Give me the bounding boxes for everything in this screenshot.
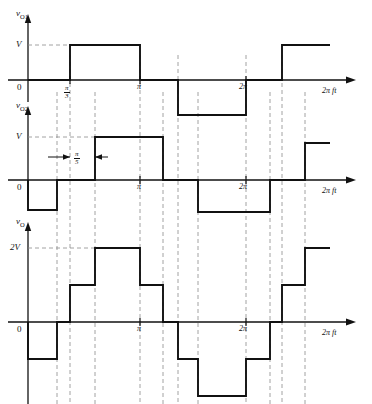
vo-x-axis-label: 2π ft xyxy=(322,328,336,337)
vo2-x-axis-label: 2π ft xyxy=(322,186,336,195)
waveform-figure xyxy=(0,0,372,404)
vo2-axis-label: vO2 xyxy=(16,100,28,112)
vo1-x-axis-label: 2π ft xyxy=(322,86,336,95)
vo1-axis-label: vO1 xyxy=(16,8,28,20)
phase-arrow-right-head xyxy=(95,154,102,159)
vo-x-axis-arrow xyxy=(346,318,356,325)
vo2-zero-label: 0 xyxy=(17,182,22,192)
phase-shift-label: π5 xyxy=(74,148,80,166)
vo-tick-label-2pi: 2π xyxy=(239,324,247,333)
vo1-x-axis-arrow xyxy=(346,76,356,83)
guide-lines xyxy=(57,55,305,404)
panel-vo xyxy=(8,222,356,404)
vo1-zero-label: 0 xyxy=(17,82,22,92)
vo-zero-label: 0 xyxy=(17,324,22,334)
vo1-tick-label-pi: π xyxy=(137,82,141,91)
vo-axis-label: vO xyxy=(16,216,25,228)
vo2-tick-label-2pi: 2π xyxy=(239,182,247,191)
phase-arrow-left-head xyxy=(63,154,70,159)
panel-vo2 xyxy=(8,106,356,212)
vo2-level-label: V xyxy=(16,131,22,141)
vo1-level-label: V xyxy=(16,39,22,49)
vo2-tick-label-pi: π xyxy=(137,182,141,191)
vo1-tick-label-pi-over-3: π3 xyxy=(64,82,70,100)
vo-y-axis-arrow xyxy=(25,222,31,231)
vo-level-label: 2V xyxy=(10,242,20,252)
vo2-x-axis-arrow xyxy=(346,176,356,183)
vo1-tick-label-2pi: 2π xyxy=(239,82,247,91)
panel-vo1 xyxy=(8,14,356,115)
vo-tick-label-pi: π xyxy=(137,324,141,333)
